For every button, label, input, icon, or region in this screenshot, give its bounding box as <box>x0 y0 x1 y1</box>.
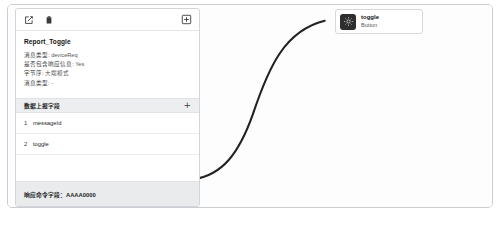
meta-label: 消息类型: <box>24 52 50 58</box>
card-toolbar <box>16 9 199 31</box>
node-title: toggle <box>361 14 379 20</box>
flow-canvas[interactable]: Report_Toggle 消息类型: deviceReq 是否包含响应信息: … <box>8 5 492 207</box>
message-card[interactable]: Report_Toggle 消息类型: deviceReq 是否包含响应信息: … <box>15 8 200 207</box>
field-name: messageId <box>33 120 61 126</box>
meta-label: 字节序: <box>24 70 44 76</box>
meta-line-message-type: 消息类型: deviceReq <box>24 51 191 60</box>
card-footer: 响应命令字段：AAAA0000 <box>16 181 199 206</box>
meta-line-has-response: 是否包含响应信息: Yes <box>24 60 191 69</box>
connector-edge <box>193 21 324 179</box>
flow-editor-frame: Report_Toggle 消息类型: deviceReq 是否包含响应信息: … <box>7 4 493 208</box>
field-name: toggle <box>33 141 49 147</box>
table-row[interactable]: 2 toggle <box>16 134 199 155</box>
meta-value: Yes <box>75 61 84 67</box>
toggle-node[interactable]: toggle Button <box>335 9 423 34</box>
trash-icon[interactable] <box>43 14 54 25</box>
edit-square-icon[interactable] <box>23 14 34 25</box>
meta-line-message-type-2: 消息类型: - <box>24 79 191 88</box>
response-command-label: 响应命令字段：AAAA0000 <box>24 190 96 199</box>
table-row[interactable]: 1 messageId <box>16 113 199 134</box>
add-box-icon[interactable] <box>181 14 192 25</box>
card-body: Report_Toggle 消息类型: deviceReq 是否包含响应信息: … <box>16 31 199 92</box>
meta-value: 大端模式 <box>45 70 69 76</box>
meta-value: deviceReq <box>51 52 77 58</box>
fields-section-title: 数据上报字段 <box>24 101 60 110</box>
widget-icon <box>340 14 356 30</box>
fields-section-header: 数据上报字段 + <box>16 98 199 113</box>
meta-label: 消息类型: <box>24 80 50 86</box>
node-text: toggle Button <box>361 14 379 28</box>
meta-label: 是否包含响应信息: <box>24 61 74 67</box>
add-field-button[interactable]: + <box>183 101 191 110</box>
field-index: 1 <box>24 120 33 126</box>
meta-line-byte-order: 字节序: 大端模式 <box>24 69 191 78</box>
card-title: Report_Toggle <box>24 38 191 45</box>
node-subtitle: Button <box>361 23 379 29</box>
field-index: 2 <box>24 141 33 147</box>
meta-value: - <box>51 80 53 86</box>
